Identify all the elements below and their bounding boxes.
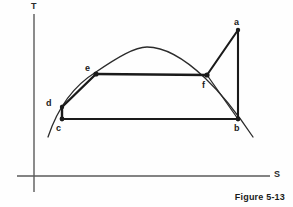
segment-a-f <box>207 30 238 75</box>
point-label-e: e <box>85 64 90 73</box>
point-label-a: a <box>234 18 239 27</box>
point-marker-d <box>60 105 64 109</box>
point-label-c: c <box>56 124 61 133</box>
x-axis-label: S <box>274 170 280 179</box>
y-axis-label: T <box>31 2 37 11</box>
point-marker-b <box>236 117 241 122</box>
segment-f-b <box>207 75 238 119</box>
point-label-d: d <box>46 99 52 108</box>
point-marker-f <box>204 72 209 77</box>
point-marker-c <box>60 117 65 122</box>
segment-d-e <box>62 74 96 107</box>
point-label-f: f <box>202 81 205 90</box>
point-label-b: b <box>234 124 240 133</box>
point-marker-a <box>236 28 240 32</box>
figure-caption: Figure 5-13 <box>235 192 285 202</box>
figure-container: T S a b c d e f Figure 5-13 <box>0 0 293 207</box>
segment-e-f <box>96 74 207 75</box>
point-marker-e <box>93 71 98 76</box>
ts-diagram <box>0 0 293 207</box>
